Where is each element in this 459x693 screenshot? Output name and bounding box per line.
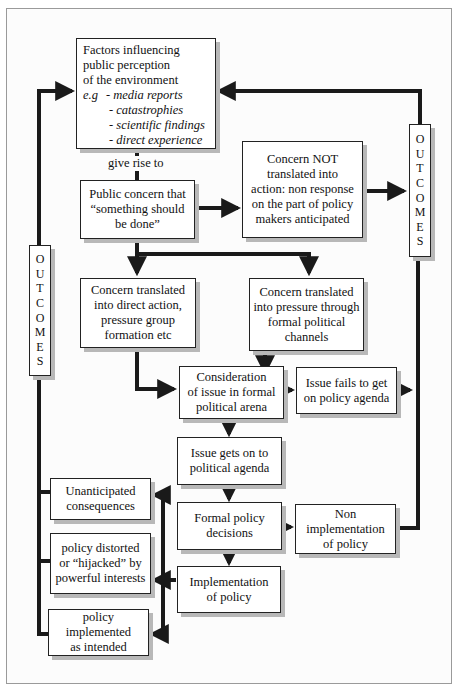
outcomes-letter: S [37, 354, 44, 369]
box-text: or “hijacked” by [56, 556, 146, 571]
arrow-outcomes-to-factors-right [219, 91, 420, 124]
box-text: formal political [253, 315, 359, 330]
box-text: of policy [189, 590, 268, 605]
public-concern-box: Public concern that “something should be… [80, 180, 195, 239]
policy-distorted-box: policy distorted or “hijacked” by powerf… [50, 533, 151, 594]
arrow-outcomes-to-factors-left [39, 91, 72, 245]
box-text: Unanticipated [65, 484, 135, 499]
outcomes-letter: U [416, 147, 425, 162]
box-text: Public concern that [89, 187, 186, 202]
direct-action-box: Concern translated into direct action, p… [80, 278, 196, 348]
outcomes-letter: T [416, 161, 423, 176]
box-text: be done” [89, 217, 186, 232]
box-text: makers anticipated [251, 212, 354, 227]
outcomes-letter: M [415, 205, 426, 220]
policy-as-intended-box: policy implemented as intended [48, 609, 149, 656]
box-text: formation etc [91, 328, 185, 343]
box-text: Concern NOT [251, 152, 354, 167]
outcomes-right-box: O U T C O M E S [409, 124, 431, 257]
box-text: Non [306, 507, 384, 522]
box-text: into direct action, [91, 298, 185, 313]
box-text: pressure group [91, 313, 185, 328]
box-text: political arena [188, 400, 276, 415]
outcomes-letter: C [416, 176, 424, 191]
factors-title-line: of the environment [83, 73, 205, 88]
box-text: Issue fails to get [304, 376, 389, 391]
outcomes-left-box: O U T C O M E S [29, 245, 51, 376]
arrow-direct-to-consideration [137, 348, 174, 389]
box-text: on policy agenda [304, 391, 389, 406]
box-text: of policy [306, 537, 384, 552]
outcomes-letter: U [36, 267, 45, 282]
outcomes-letter: O [416, 132, 425, 147]
outcomes-letter: E [416, 220, 423, 235]
factors-title-line: public perception [83, 58, 205, 73]
line-nonimpl-to-outcomes [396, 257, 418, 528]
box-text: Formal policy [194, 511, 264, 526]
eg-label: e.g [83, 88, 98, 103]
box-text: on the part of policy [251, 197, 354, 212]
box-text: policy distorted [56, 541, 146, 556]
outcomes-letter: O [36, 311, 45, 326]
issue-gets-box: Issue gets on to political agenda [177, 437, 282, 485]
box-text: Implementation [189, 575, 268, 590]
give-rise-label: give rise to [106, 156, 166, 171]
outcomes-letter: O [416, 191, 425, 206]
arrow-impl-to-intended [152, 580, 163, 634]
arrow-impl-to-unanticipated [154, 495, 176, 580]
consideration-box: Consideration of issue in formal politic… [179, 366, 284, 419]
box-text: implemented [66, 625, 131, 640]
box-text: translated into [251, 167, 354, 182]
box-text: implementation [306, 522, 384, 537]
example-item: - scientific findings [83, 118, 205, 133]
formal-pressure-box: Concern translated into pressure through… [249, 278, 364, 351]
box-text: powerful interests [56, 571, 146, 586]
box-text: of issue in formal [188, 385, 276, 400]
issue-fails-box: Issue fails to get on policy agenda [296, 367, 397, 414]
factors-title-line: Factors influencing [83, 43, 205, 58]
unanticipated-box: Unanticipated consequences [50, 478, 151, 520]
arrow-concern-to-formal [137, 254, 309, 273]
outcomes-letter: T [36, 281, 43, 296]
outcomes-letter: S [417, 234, 424, 249]
line-outcomes-collect-left [39, 376, 50, 634]
example-item: - media reports [98, 88, 183, 103]
box-text: as intended [66, 640, 131, 655]
box-text: Issue gets on to [190, 446, 269, 461]
example-item: - catastrophies [83, 103, 205, 118]
non-implementation-box: Non implementation of policy [295, 504, 396, 554]
box-text: political agenda [190, 461, 269, 476]
box-text: decisions [194, 526, 264, 541]
box-text: into pressure through [253, 300, 359, 315]
box-text: policy [66, 610, 131, 625]
implementation-box: Implementation of policy [177, 566, 281, 613]
box-text: Concern translated [91, 283, 185, 298]
outcomes-letter: C [36, 296, 44, 311]
formal-decisions-box: Formal policy decisions [177, 502, 282, 550]
box-text: “something should [89, 202, 186, 217]
box-text: Consideration [188, 370, 276, 385]
box-text: channels [253, 330, 359, 345]
box-text: consequences [65, 499, 135, 514]
box-text: action: non response [251, 182, 354, 197]
box-text: Concern translated [253, 285, 359, 300]
outcomes-letter: O [36, 252, 45, 267]
outcomes-letter: E [36, 340, 43, 355]
factors-box: Factors influencing public perception of… [76, 38, 216, 149]
outcomes-letter: M [35, 325, 46, 340]
concern-not-translated-box: Concern NOT translated into action: non … [242, 141, 363, 238]
example-item: - direct experience [83, 133, 205, 148]
